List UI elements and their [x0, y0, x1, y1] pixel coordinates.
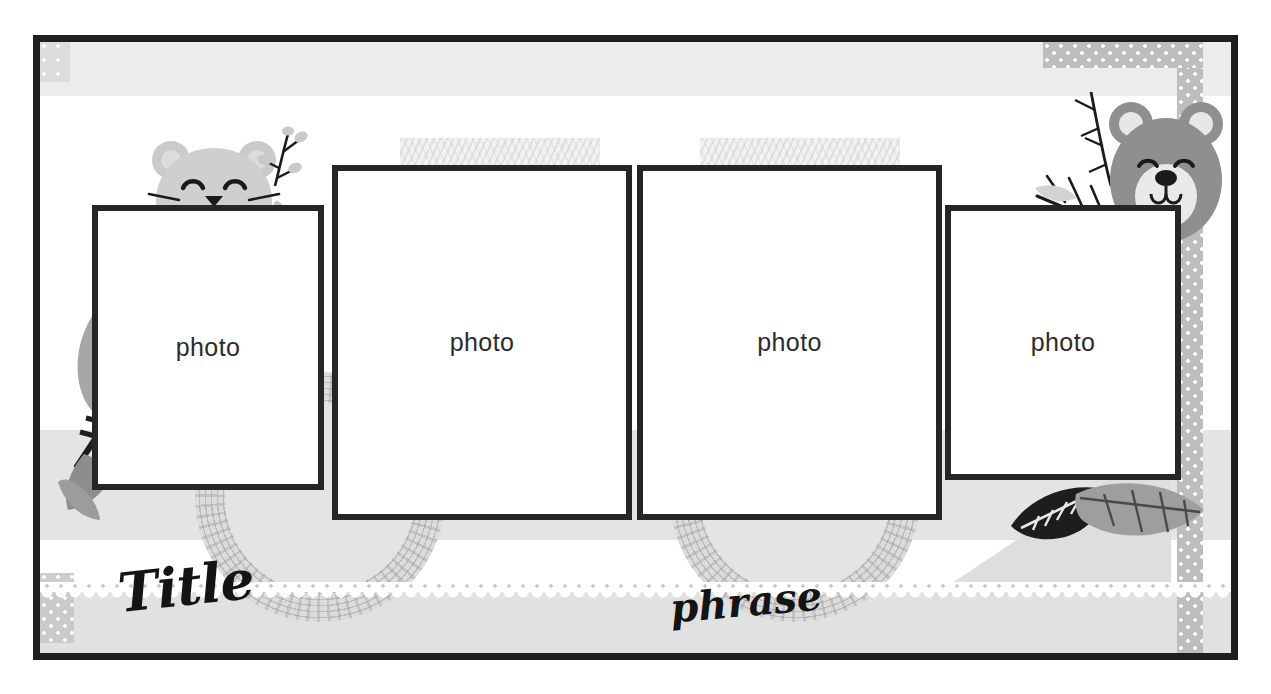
- washi-tape-icon: [700, 138, 900, 168]
- leaf-icon: [1070, 470, 1210, 560]
- photo-slot-4-label: photo: [1031, 328, 1096, 357]
- polka-dot-tape-icon: [40, 42, 70, 82]
- photo-slot-3-label: photo: [757, 328, 822, 357]
- photo-slot-2-label: photo: [450, 328, 515, 357]
- photo-slot-4[interactable]: photo: [945, 205, 1181, 480]
- photo-slot-1-label: photo: [176, 333, 241, 362]
- page-outer-frame: photo photo photo photo Title phrase: [33, 35, 1238, 660]
- washi-tape-icon: [400, 138, 600, 168]
- photo-slot-2[interactable]: photo: [332, 165, 632, 520]
- photo-slot-1[interactable]: photo: [92, 205, 324, 490]
- polka-dot-tape-icon: [1043, 42, 1203, 68]
- scrapbook-page: photo photo photo photo Title phrase: [0, 0, 1271, 694]
- photo-slot-3[interactable]: photo: [637, 165, 942, 520]
